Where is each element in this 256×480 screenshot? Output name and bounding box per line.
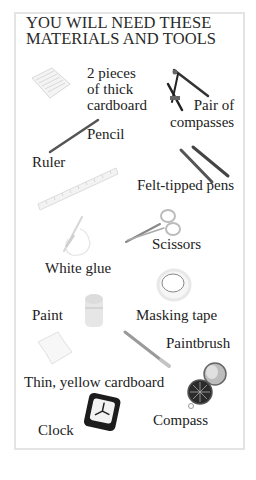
label-paintbrush: Paintbrush	[166, 336, 230, 351]
label-line: cardboard	[87, 97, 147, 113]
ruler-icon	[36, 164, 120, 214]
label-pair-of-compasses: Pair of compasses	[170, 97, 234, 131]
title-line-2: MATERIALS AND TOOLS	[26, 31, 216, 47]
label-line: Pair of	[170, 97, 234, 114]
tape-roll-icon	[156, 268, 192, 302]
label-pencil: Pencil	[87, 127, 125, 142]
label-line: compasses	[170, 114, 234, 131]
label-masking-tape: Masking tape	[136, 308, 217, 323]
alarm-clock-icon	[82, 391, 122, 435]
page-title: YOU WILL NEED THESE MATERIALS AND TOOLS	[26, 15, 216, 47]
cardboard-stack-icon	[28, 66, 72, 100]
glue-bottle-icon	[58, 215, 98, 259]
magnetic-compass-icon	[186, 362, 228, 410]
label-felt-tipped-pens: Felt-tipped pens	[137, 178, 234, 193]
label-clock: Clock	[38, 423, 74, 438]
label-thin-yellow-cardboard: Thin, yellow cardboard	[24, 375, 164, 390]
label-white-glue: White glue	[45, 261, 111, 276]
label-thick-cardboard: 2 pieces of thick cardboard	[87, 65, 147, 113]
label-line: of thick	[87, 81, 147, 97]
paint-pot-icon	[83, 293, 105, 329]
thin-card-icon	[34, 330, 74, 366]
label-line: 2 pieces	[87, 65, 147, 81]
label-scissors: Scissors	[152, 237, 201, 252]
label-paint: Paint	[32, 308, 63, 323]
label-compass: Compass	[153, 413, 208, 428]
